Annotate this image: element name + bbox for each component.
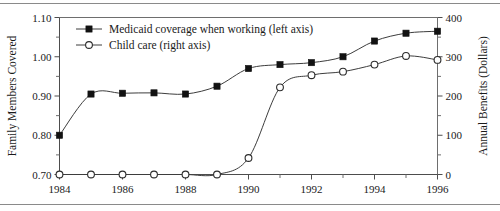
data-point-marker <box>182 91 188 97</box>
data-point-marker <box>182 171 189 178</box>
data-point-marker <box>56 132 62 138</box>
data-point-marker <box>214 171 221 178</box>
data-point-marker <box>308 72 315 79</box>
x-tick-label-1996: 1996 <box>427 183 450 195</box>
data-point-marker <box>151 90 157 96</box>
data-point-marker <box>371 61 378 68</box>
x-tick-label-1988: 1988 <box>175 183 198 195</box>
data-point-marker <box>277 84 284 91</box>
y-right-tick-label-400: 400 <box>446 12 463 24</box>
x-tick-label-1986: 1986 <box>112 183 135 195</box>
data-point-marker <box>119 171 126 178</box>
x-tick-label-1984: 1984 <box>49 183 72 195</box>
data-point-marker <box>277 62 283 68</box>
x-tick-label-1992: 1992 <box>301 183 323 195</box>
x-tick-label-1994: 1994 <box>364 183 387 195</box>
y-right-tick-label-100: 100 <box>446 129 463 141</box>
data-point-marker <box>340 54 346 60</box>
y-right-tick-label-200: 200 <box>446 90 463 102</box>
data-point-marker <box>119 90 125 96</box>
data-point-marker <box>214 83 220 89</box>
y-axis-right: 0100200300400 <box>438 12 463 181</box>
y-axis-right-title: Annual Benefits (Dollars) <box>477 36 490 156</box>
data-point-marker <box>151 171 158 178</box>
y-left-tick-label-0.70: 0.70 <box>32 169 52 181</box>
data-point-marker <box>308 60 314 66</box>
y-right-tick-label-0: 0 <box>446 169 452 181</box>
y-right-tick-label-300: 300 <box>446 51 463 63</box>
axis-titles: Family Members CoveredAnnual Benefits (D… <box>6 35 490 156</box>
y-left-tick-label-0.90: 0.90 <box>32 90 52 102</box>
y-axis-left-title: Family Members Covered <box>6 35 19 156</box>
dual-axis-line-chart: 1984198619881990199219941996 0.700.800.9… <box>0 0 500 211</box>
legend-label-2: Child care (right axis) <box>109 39 210 52</box>
data-point-marker <box>340 68 347 75</box>
y-left-tick-label-1.10: 1.10 <box>32 12 52 24</box>
data-point-marker <box>88 171 95 178</box>
y-axis-left: 0.700.800.901.001.10 <box>32 12 59 181</box>
y-left-tick-label-0.80: 0.80 <box>32 129 52 141</box>
figure-container: 1984198619881990199219941996 0.700.800.9… <box>0 0 500 211</box>
data-point-marker <box>403 53 410 60</box>
legend-label-1: Medicaid coverage when working (left axi… <box>109 23 313 36</box>
data-point-marker <box>434 28 440 34</box>
data-point-marker <box>403 30 409 36</box>
data-point-marker <box>245 65 251 71</box>
data-point-marker <box>371 38 377 44</box>
y-left-tick-label-1.00: 1.00 <box>32 51 52 63</box>
data-point-marker <box>56 171 63 178</box>
chart-legend: Medicaid coverage when working (left axi… <box>76 23 313 52</box>
legend-marker-open-circle <box>86 42 93 49</box>
data-point-marker <box>245 155 252 162</box>
x-axis: 1984198619881990199219941996 <box>49 175 450 195</box>
legend-marker-filled-square <box>86 26 92 32</box>
data-point-marker <box>88 91 94 97</box>
x-tick-label-1990: 1990 <box>238 183 261 195</box>
data-point-marker <box>434 56 441 63</box>
